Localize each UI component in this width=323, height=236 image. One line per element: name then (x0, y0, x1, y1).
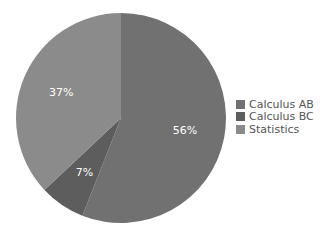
legend-swatch (236, 112, 245, 121)
legend-item-statistics: Statistics (236, 123, 314, 136)
data-label-calculus-ab: 56% (173, 124, 197, 137)
legend-swatch (236, 100, 245, 109)
data-label-calculus-bc: 7% (76, 166, 93, 179)
legend-label: Calculus BC (249, 110, 314, 123)
legend-swatch (236, 125, 245, 134)
data-label-statistics: 37% (49, 86, 73, 99)
legend-label: Calculus AB (249, 98, 314, 111)
legend: Calculus AB Calculus BC Statistics (236, 98, 314, 136)
legend-item-calculus-bc: Calculus BC (236, 111, 314, 124)
legend-label: Statistics (249, 123, 299, 136)
legend-item-calculus-ab: Calculus AB (236, 98, 314, 111)
